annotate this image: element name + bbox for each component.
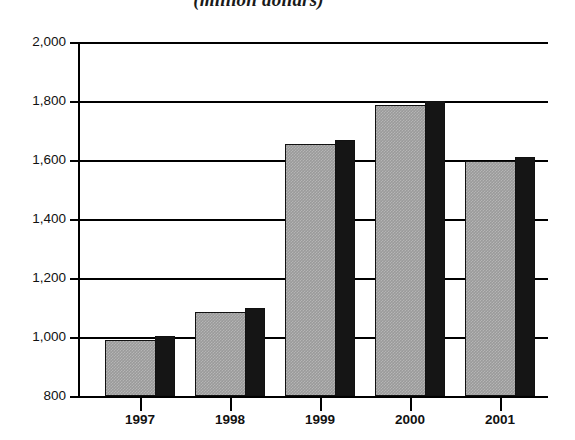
x-axis-label-1997: 1997 (105, 412, 175, 427)
y-axis-label-1400: 1,400 (2, 211, 66, 226)
chart-title: (million dollars) (0, 0, 575, 11)
y-axis-label-1000: 1,000 (2, 329, 66, 344)
gridline-1800 (78, 101, 548, 103)
x-axis-label-1998: 1998 (195, 412, 265, 427)
x-axis-tick-2001 (500, 398, 502, 411)
x-axis-label-2000: 2000 (375, 412, 445, 427)
bar-1999 (285, 140, 355, 396)
y-axis-tick-1800 (70, 101, 78, 103)
y-axis-label-800: 800 (2, 388, 66, 403)
gridline-800-baseline (78, 396, 548, 398)
bar-chart-figure: (million dollars) 2,000 1,800 1,600 1,40… (0, 0, 575, 440)
x-axis-tick-1997 (140, 398, 142, 411)
y-axis-label-1200: 1,200 (2, 270, 66, 285)
plot-area (78, 42, 548, 396)
y-axis-tick-1200 (70, 278, 78, 280)
x-axis-tick-2000 (410, 398, 412, 411)
x-axis-label-1999: 1999 (285, 412, 355, 427)
bar-2001-front (465, 161, 516, 396)
bar-1999-side (335, 140, 355, 396)
bar-1998-side (245, 308, 265, 396)
y-axis-tick-2000 (70, 42, 78, 44)
y-axis-tick-1400 (70, 219, 78, 221)
bar-2000-side (425, 101, 445, 396)
y-axis-label-1800: 1,800 (2, 93, 66, 108)
y-axis-labels: 2,000 1,800 1,600 1,400 1,200 1,000 800 (0, 0, 66, 440)
x-axis-label-2001: 2001 (465, 412, 535, 427)
gridline-2000 (78, 42, 548, 44)
bar-2001 (465, 157, 535, 396)
y-axis-tick-1600 (70, 160, 78, 162)
bar-1999-front (285, 144, 336, 396)
bar-1998 (195, 308, 265, 396)
x-axis-tick-1998 (230, 398, 232, 411)
y-axis-tick-800 (70, 396, 78, 398)
bar-1998-front (195, 312, 246, 396)
y-axis-label-1600: 1,600 (2, 152, 66, 167)
bar-2001-side (515, 157, 535, 396)
bar-1997-side (155, 336, 175, 396)
bar-2000-front (375, 105, 426, 396)
bar-2000 (375, 101, 445, 396)
bar-1997-front (105, 340, 156, 396)
y-axis-tick-1000 (70, 337, 78, 339)
x-axis-tick-1999 (320, 398, 322, 411)
bar-1997 (105, 336, 175, 396)
y-axis-label-2000: 2,000 (2, 34, 66, 49)
